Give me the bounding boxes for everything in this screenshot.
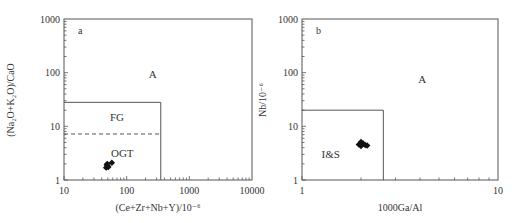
field-label: I&S (321, 148, 339, 160)
y-tick-label: 1000 (278, 14, 298, 25)
panel-label: a (78, 25, 83, 36)
x-tick-label: 100 (119, 185, 134, 196)
x-tick-label: 10 (59, 185, 69, 196)
panel-label: b (316, 25, 321, 36)
field-label: FG (110, 111, 124, 123)
x-tick-label: 1 (300, 185, 305, 196)
plot-frame (64, 19, 252, 180)
y-tick-label: 10 (50, 121, 60, 132)
x-tick-label: 10000 (240, 185, 265, 196)
x-axis-label: 1000Ga/Al (378, 202, 423, 213)
y-tick-label: 1000 (40, 14, 60, 25)
y-tick-label: 1 (55, 175, 60, 186)
x-tick-label: 1000 (179, 185, 199, 196)
x-axis-label: (Ce+Zr+Nb+Y)/10⁻⁶ (115, 202, 201, 214)
chart-figure: 101001000100001101001000(Ce+Zr+Nb+Y)/10⁻… (0, 0, 520, 223)
y-tick-label: 100 (283, 67, 298, 78)
x-tick-label: 10 (493, 185, 503, 196)
y-axis-label: (Na₂O+K₂O)/CaO (5, 63, 17, 137)
field-boundary (302, 110, 383, 180)
field-label: A (418, 73, 426, 85)
y-tick-label: 1 (293, 175, 298, 186)
field-label: OGT (111, 147, 134, 159)
y-axis-label: Nb/10⁻⁶ (257, 83, 268, 117)
y-tick-label: 100 (45, 67, 60, 78)
panel-a: 101001000100001101001000(Ce+Zr+Nb+Y)/10⁻… (5, 14, 265, 215)
panel-b: 11011010010001000Ga/AlNb/10⁻⁶bAI&S (257, 14, 503, 214)
field-label: A (149, 68, 157, 80)
y-tick-label: 10 (288, 121, 298, 132)
